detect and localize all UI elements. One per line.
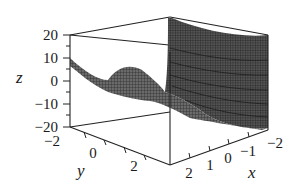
x-tick-neg2: −2 (267, 135, 283, 151)
z-axis-label: z (15, 68, 23, 87)
z-tick-0: 0 (51, 73, 59, 89)
y-tick-0: 0 (89, 145, 97, 161)
x-tick-0: 0 (224, 150, 232, 166)
y-axis: −2 0 2 y (44, 132, 146, 180)
z-tick-10: 10 (43, 50, 58, 66)
y-tick-neg2: −2 (44, 133, 60, 149)
x-axis: 2 1 0 −1 −2 x (185, 132, 283, 182)
x-tick-2: 2 (185, 165, 193, 181)
z-tick-20: 20 (43, 27, 58, 43)
x-tick-1: 1 (206, 157, 214, 173)
x-tick-neg1: −1 (240, 143, 256, 159)
z-axis: 20 10 0 −10 −20 z (15, 27, 70, 135)
surface-plot: 20 10 0 −10 −20 z −2 0 2 y 2 1 0 −1 −2 x (0, 0, 304, 182)
y-axis-label: y (75, 161, 85, 180)
x-axis-label: x (247, 163, 256, 182)
y-tick-2: 2 (130, 158, 138, 174)
z-tick-neg10: −10 (35, 96, 58, 112)
